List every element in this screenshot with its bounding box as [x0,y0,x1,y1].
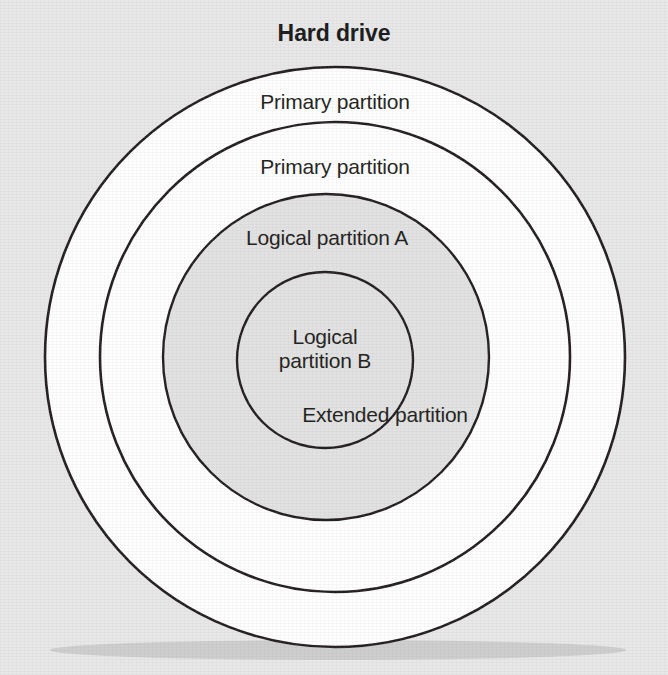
label-logical-partition-b-line1: Logical [292,325,357,348]
label-logical-partition-a: Logical partition A [246,226,408,250]
label-logical-partition-b: Logicalpartition B [279,325,371,372]
page-title: Hard drive [278,20,391,47]
label-primary-partition-outer: Primary partition [260,90,409,114]
label-primary-partition-inner: Primary partition [260,155,409,179]
label-extended-partition: Extended partition [302,403,468,427]
diagram-canvas: Hard drive Primary partition Primary par… [0,0,668,675]
label-logical-partition-b-line2: partition B [279,349,371,372]
